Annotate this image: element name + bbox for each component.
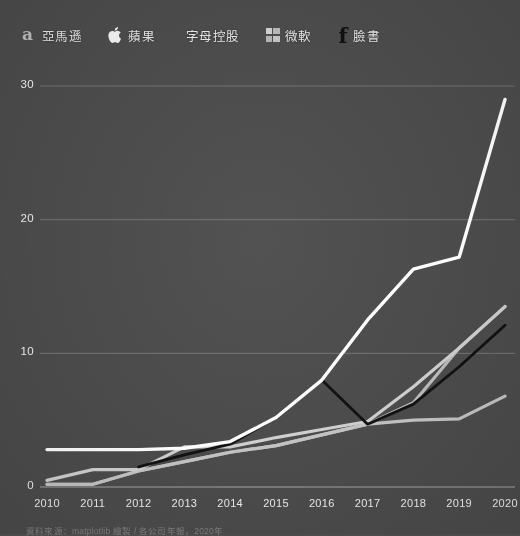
apple-logo-icon — [108, 26, 123, 44]
series-line — [47, 99, 505, 449]
legend-item-microsoft[interactable]: 微軟 — [266, 23, 312, 47]
legend-item-amazon[interactable]: a 亞馬遜 — [22, 23, 82, 47]
x-axis-tick-label: 2013 — [164, 497, 204, 509]
x-axis-tick-label: 2010 — [27, 497, 67, 509]
x-axis-tick-label: 2017 — [348, 497, 388, 509]
legend-item-facebook[interactable]: f 臉書 — [337, 23, 380, 47]
x-axis-tick-label: 2016 — [302, 497, 342, 509]
x-axis-tick-label: 2018 — [393, 497, 433, 509]
legend-label-alphabet: 字母控股 — [186, 26, 240, 45]
legend-label-microsoft: 微軟 — [285, 26, 312, 45]
y-axis-tick-label: 0 — [8, 479, 34, 491]
x-axis-tick-label: 2012 — [119, 497, 159, 509]
series-line — [47, 307, 505, 481]
legend-item-apple[interactable]: 蘋果 — [108, 23, 155, 47]
x-axis-tick-label: 2015 — [256, 497, 296, 509]
legend-label-facebook: 臉書 — [353, 26, 380, 45]
chart-legend: a 亞馬遜 蘋果 字母控股 微軟 f 臉書 — [0, 20, 520, 50]
microsoft-logo-icon — [266, 28, 280, 42]
facebook-logo-icon: f — [337, 26, 348, 45]
y-axis-tick-label: 20 — [8, 212, 34, 224]
series-line — [47, 307, 505, 485]
chart-source-caption: 資料來源：matplotlib 繪製 / 各公司年報，2020年 — [26, 524, 223, 536]
line-chart: 0102030 20102011201220132014201520162017… — [0, 50, 520, 500]
x-axis-tick-label: 2020 — [485, 497, 520, 509]
x-axis-tick-label: 2019 — [439, 497, 479, 509]
legend-label-apple: 蘋果 — [128, 26, 155, 45]
y-axis-tick-label: 10 — [8, 345, 34, 357]
x-axis-tick-label: 2011 — [73, 497, 113, 509]
amazon-logo-icon: a — [22, 27, 37, 44]
chart-canvas — [0, 50, 520, 500]
legend-item-alphabet[interactable]: 字母控股 — [181, 23, 240, 47]
legend-label-amazon: 亞馬遜 — [42, 26, 82, 45]
x-axis-tick-label: 2014 — [210, 497, 250, 509]
y-axis-tick-label: 30 — [8, 78, 34, 90]
